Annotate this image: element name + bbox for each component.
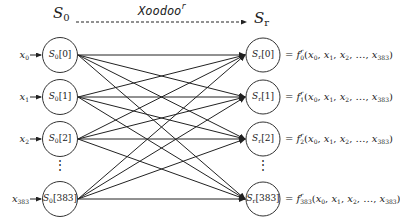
input-x0: x0 <box>20 50 29 61</box>
equation-row-1: = fr1(x0, x1, x2, …, x383) <box>285 92 393 103</box>
left-node-383-label: S0[383] <box>43 194 77 204</box>
left-node-1-label: S0[1] <box>49 92 72 102</box>
right-vertical-ellipsis: ⋮ <box>257 163 269 167</box>
input-x2: x2 <box>20 134 29 145</box>
right-node-0-label: Sr[0] <box>252 50 274 60</box>
left-vertical-ellipsis: ⋮ <box>54 163 66 167</box>
right-node-1-label: Sr[1] <box>252 92 274 102</box>
right-nodes <box>246 38 280 216</box>
left-node-0-label: S0[0] <box>49 50 72 60</box>
equation-row-2: = fr2(x0, x1, x2, …, x383) <box>285 134 393 145</box>
input-x383: x383 <box>12 194 29 205</box>
left-nodes <box>43 38 78 217</box>
transform-label: Xoodoor <box>138 3 186 17</box>
input-x1: x1 <box>20 92 29 103</box>
left-node-2-label: S0[2] <box>49 134 72 144</box>
right-node-2-label: Sr[2] <box>252 134 274 144</box>
equation-row-383: = fr383(x0, x1, x2, …, x383) <box>285 194 400 205</box>
right-node-383-label: Sr[383] <box>246 194 279 204</box>
equation-row-0: = fr0(x0, x1, x2, …, x383) <box>285 50 393 61</box>
input-arrows <box>30 55 41 199</box>
left-header: S0 <box>53 6 70 23</box>
right-header: Sr <box>254 11 269 28</box>
edges <box>78 55 245 199</box>
